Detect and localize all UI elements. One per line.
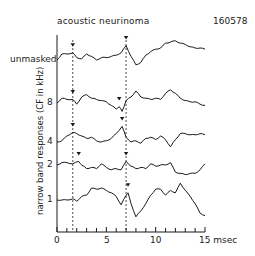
peak-arrow-icon <box>77 152 81 156</box>
trace-4 <box>57 126 205 146</box>
plot-area <box>0 0 255 256</box>
trace-2 <box>57 161 205 174</box>
trace-1 <box>57 183 205 217</box>
peak-arrow-icon <box>71 43 75 47</box>
peak-arrow-icon <box>120 117 124 121</box>
peak-arrow-icon <box>117 97 121 101</box>
peak-arrow-icon <box>71 123 75 127</box>
trace-8 <box>57 90 205 112</box>
traces <box>57 41 205 217</box>
trace-unmasked <box>57 41 205 65</box>
peak-arrow-icon <box>126 183 130 187</box>
peak-arrow-icon <box>124 36 128 40</box>
peak-arrow-icon <box>124 152 128 156</box>
peak-arrow-icon <box>71 90 75 94</box>
